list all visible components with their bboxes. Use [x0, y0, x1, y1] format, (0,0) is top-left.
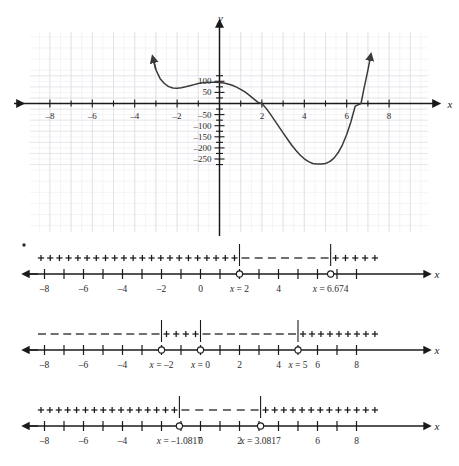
- svg-text:x = 6.674: x = 6.674: [312, 284, 349, 294]
- svg-text:x = –1.0817: x = –1.0817: [156, 436, 202, 446]
- svg-text:–2: –2: [172, 111, 182, 121]
- svg-text:x: x: [434, 344, 440, 356]
- svg-text:8: 8: [387, 111, 392, 121]
- svg-text:4: 4: [276, 284, 281, 294]
- svg-text:–4: –4: [117, 360, 128, 370]
- svg-text:–100: –100: [193, 121, 213, 131]
- svg-text:–6: –6: [78, 284, 89, 294]
- svg-text:–150: –150: [193, 132, 213, 142]
- graph-svg: xy–8–6–4–2246810050–50–100–150–200–250: [0, 0, 459, 236]
- svg-text:6: 6: [315, 436, 320, 446]
- svg-text:–4: –4: [117, 436, 128, 446]
- svg-text:–200: –200: [193, 143, 213, 153]
- svg-text:100: 100: [198, 76, 212, 86]
- svg-text:4: 4: [276, 360, 281, 370]
- sign-chart-1-svg: –8–6–4–204x = 2x = 6.674x: [0, 236, 459, 308]
- sign-chart-2-svg: –8–6–42468x = –2x = 0x = 5x: [0, 312, 459, 384]
- sign-chart-3: –8–6–40268x = –1.0817x = 3.0817x: [0, 388, 459, 460]
- polynomial-graph: xy–8–6–4–2246810050–50–100–150–200–250: [0, 0, 459, 236]
- sign-chart-2: –8–6–42468x = –2x = 0x = 5x: [0, 312, 459, 384]
- svg-text:2: 2: [237, 360, 242, 370]
- svg-text:y: y: [217, 12, 223, 24]
- svg-text:0: 0: [198, 284, 203, 294]
- figure-root: xy–8–6–4–2246810050–50–100–150–200–250 –…: [0, 0, 459, 466]
- svg-text:4: 4: [302, 111, 307, 121]
- svg-text:–6: –6: [78, 360, 89, 370]
- sign-chart-3-svg: –8–6–40268x = –1.0817x = 3.0817x: [0, 388, 459, 460]
- svg-text:8: 8: [354, 360, 359, 370]
- svg-text:–8: –8: [39, 284, 50, 294]
- svg-text:x = 3.0817: x = 3.0817: [239, 436, 281, 446]
- svg-text:8: 8: [354, 436, 359, 446]
- svg-text:x = 5: x = 5: [287, 360, 307, 370]
- svg-text:–6: –6: [87, 111, 98, 121]
- svg-text:–8: –8: [44, 111, 55, 121]
- svg-text:x = 2: x = 2: [229, 284, 249, 294]
- svg-text:x: x: [434, 268, 440, 280]
- svg-text:–4: –4: [129, 111, 140, 121]
- svg-text:50: 50: [203, 87, 213, 97]
- svg-text:x = –2: x = –2: [149, 360, 174, 370]
- svg-text:6: 6: [344, 111, 349, 121]
- svg-text:–8: –8: [39, 360, 50, 370]
- sign-chart-1: –8–6–4–204x = 2x = 6.674x: [0, 236, 459, 308]
- svg-text:–50: –50: [197, 110, 212, 120]
- svg-text:6: 6: [315, 360, 320, 370]
- svg-text:–6: –6: [78, 436, 89, 446]
- svg-text:–8: –8: [39, 436, 50, 446]
- svg-text:–4: –4: [117, 284, 128, 294]
- svg-text:x: x: [447, 98, 453, 110]
- svg-text:x = 0: x = 0: [190, 360, 210, 370]
- svg-text:2: 2: [260, 111, 265, 121]
- svg-text:–2: –2: [156, 284, 167, 294]
- svg-text:x: x: [434, 420, 440, 432]
- svg-text:–250: –250: [193, 154, 213, 164]
